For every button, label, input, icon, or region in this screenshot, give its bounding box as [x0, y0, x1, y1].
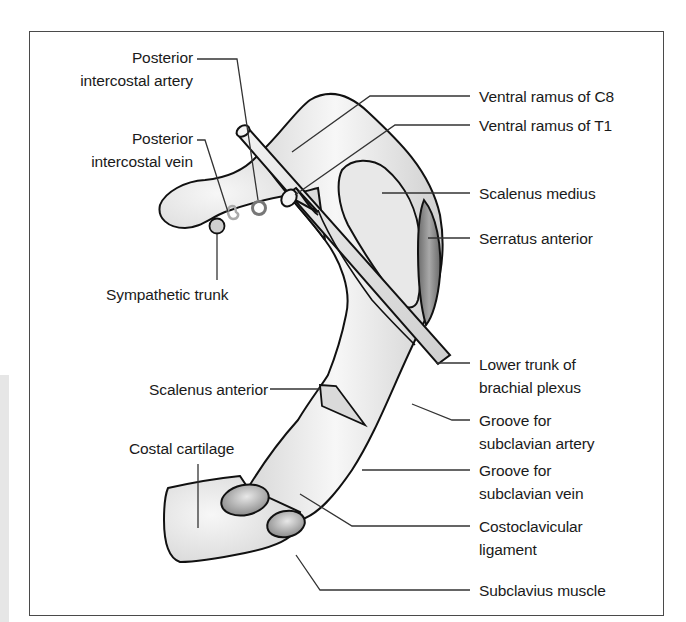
label-line: Costal cartilage [129, 437, 234, 460]
label-posterior-intercostal-artery: Posterior intercostal artery [38, 46, 193, 92]
label-line: subclavian artery [479, 432, 594, 455]
label-costal-cartilage: Costal cartilage [129, 437, 234, 460]
label-line: Posterior [38, 46, 193, 69]
label-line: Posterior [38, 127, 193, 150]
label-groove-subclavian-artery: Groove for subclavian artery [479, 409, 594, 455]
label-line: Groove for [479, 459, 583, 482]
label-line: Scalenus medius [479, 182, 596, 205]
label-line: Subclavius muscle [479, 579, 606, 602]
label-line: Scalenus anterior [60, 378, 268, 401]
sympathetic-trunk-shape [210, 219, 225, 234]
label-serratus-anterior: Serratus anterior [479, 227, 593, 250]
label-line: intercostal artery [38, 69, 193, 92]
label-line: Serratus anterior [479, 227, 593, 250]
label-line: intercostal vein [38, 150, 193, 173]
label-lower-trunk-brachial-plexus: Lower trunk of brachial plexus [479, 353, 581, 399]
label-costoclavicular-ligament: Costoclavicular ligament [479, 515, 583, 561]
label-line: Lower trunk of [479, 353, 581, 376]
label-ventral-ramus-c8: Ventral ramus of C8 [479, 85, 614, 108]
label-line: Ventral ramus of T1 [479, 114, 612, 137]
label-subclavius-muscle: Subclavius muscle [479, 579, 606, 602]
posterior-intercostal-artery-shape [253, 202, 266, 215]
label-posterior-intercostal-vein: Posterior intercostal vein [38, 127, 193, 173]
label-ventral-ramus-t1: Ventral ramus of T1 [479, 114, 612, 137]
label-line: Sympathetic trunk [106, 283, 228, 306]
label-line: brachial plexus [479, 376, 581, 399]
label-line: subclavian vein [479, 482, 583, 505]
label-line: ligament [479, 538, 583, 561]
label-line: Costoclavicular [479, 515, 583, 538]
label-scalenus-medius: Scalenus medius [479, 182, 596, 205]
label-scalenus-anterior: Scalenus anterior [60, 378, 268, 401]
label-sympathetic-trunk: Sympathetic trunk [106, 283, 228, 306]
label-groove-subclavian-vein: Groove for subclavian vein [479, 459, 583, 505]
label-line: Groove for [479, 409, 594, 432]
label-line: Ventral ramus of C8 [479, 85, 614, 108]
